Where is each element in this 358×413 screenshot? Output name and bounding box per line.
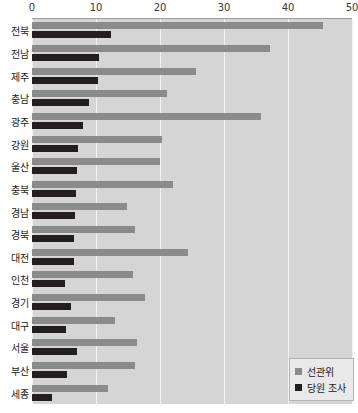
legend-swatch-icon bbox=[295, 384, 302, 391]
bar-row bbox=[32, 42, 352, 65]
legend-label: 선관위 bbox=[307, 364, 334, 379]
bar-dangwon-josa bbox=[32, 394, 52, 401]
category-label: 인천 bbox=[11, 272, 29, 287]
bar-seon-gwan-wi bbox=[32, 22, 323, 29]
category-label: 세종 bbox=[11, 385, 29, 400]
bar-seon-gwan-wi bbox=[32, 113, 261, 120]
bar-seon-gwan-wi bbox=[32, 249, 188, 256]
bar-dangwon-josa bbox=[32, 31, 111, 38]
category-label: 경기 bbox=[11, 295, 29, 310]
bar-dangwon-josa bbox=[32, 280, 65, 287]
bar-seon-gwan-wi bbox=[32, 339, 137, 346]
bar-seon-gwan-wi bbox=[32, 271, 133, 278]
x-axis: 01020304050 bbox=[0, 0, 358, 20]
category-label: 충남 bbox=[11, 91, 29, 106]
bar-dangwon-josa bbox=[32, 167, 77, 174]
bar-seon-gwan-wi bbox=[32, 226, 135, 233]
category-label: 부산 bbox=[11, 363, 29, 378]
x-tick-label: 50 bbox=[346, 2, 358, 13]
bar-row bbox=[32, 268, 352, 291]
bar-seon-gwan-wi bbox=[32, 136, 162, 143]
bar-seon-gwan-wi bbox=[32, 181, 173, 188]
bar-row bbox=[32, 200, 352, 223]
bar-seon-gwan-wi bbox=[32, 203, 127, 210]
bar-chart: 01020304050 전북전남제주충남광주강원울산충북경남경북대전인천경기대구… bbox=[0, 0, 358, 413]
bar-row bbox=[32, 19, 352, 42]
x-tick-label: 10 bbox=[90, 2, 103, 13]
category-label: 전북 bbox=[11, 23, 29, 38]
bar-dangwon-josa bbox=[32, 258, 74, 265]
bar-seon-gwan-wi bbox=[32, 317, 115, 324]
plot-area bbox=[32, 19, 352, 404]
category-label: 울산 bbox=[11, 159, 29, 174]
bar-dangwon-josa bbox=[32, 54, 99, 61]
bar-dangwon-josa bbox=[32, 303, 71, 310]
bar-dangwon-josa bbox=[32, 348, 77, 355]
y-axis-category-labels: 전북전남제주충남광주강원울산충북경남경북대전인천경기대구서울부산세종 bbox=[0, 19, 32, 404]
x-tick-label: 20 bbox=[154, 2, 167, 13]
category-label: 제주 bbox=[11, 68, 29, 83]
category-label: 경남 bbox=[11, 204, 29, 219]
bar-rows bbox=[32, 19, 352, 404]
legend-label: 당원 조사 bbox=[307, 380, 346, 395]
category-label: 충북 bbox=[11, 181, 29, 196]
category-label: 강원 bbox=[11, 136, 29, 151]
bar-dangwon-josa bbox=[32, 326, 66, 333]
bar-dangwon-josa bbox=[32, 145, 78, 152]
category-label: 경북 bbox=[11, 227, 29, 242]
x-tick-label: 40 bbox=[282, 2, 295, 13]
bar-row bbox=[32, 336, 352, 359]
bar-dangwon-josa bbox=[32, 371, 67, 378]
bar-dangwon-josa bbox=[32, 99, 89, 106]
legend-swatch-icon bbox=[295, 368, 302, 375]
legend: 선관위당원 조사 bbox=[289, 358, 354, 401]
bar-row bbox=[32, 64, 352, 87]
bar-row bbox=[32, 155, 352, 178]
bar-seon-gwan-wi bbox=[32, 362, 135, 369]
bar-dangwon-josa bbox=[32, 77, 98, 84]
category-label: 대전 bbox=[11, 249, 29, 264]
bar-row bbox=[32, 110, 352, 133]
bar-dangwon-josa bbox=[32, 190, 76, 197]
category-label: 전남 bbox=[11, 45, 29, 60]
bar-row bbox=[32, 223, 352, 246]
x-tick-label: 30 bbox=[218, 2, 231, 13]
legend-item[interactable]: 당원 조사 bbox=[295, 380, 346, 395]
category-label: 광주 bbox=[11, 113, 29, 128]
x-tick-label: 0 bbox=[29, 2, 35, 13]
bar-row bbox=[32, 87, 352, 110]
bar-seon-gwan-wi bbox=[32, 158, 160, 165]
bar-seon-gwan-wi bbox=[32, 90, 167, 97]
bar-seon-gwan-wi bbox=[32, 45, 270, 52]
bar-row bbox=[32, 245, 352, 268]
legend-items: 선관위당원 조사 bbox=[295, 364, 346, 395]
bar-dangwon-josa bbox=[32, 235, 74, 242]
bar-seon-gwan-wi bbox=[32, 294, 145, 301]
bar-seon-gwan-wi bbox=[32, 385, 108, 392]
bar-dangwon-josa bbox=[32, 122, 83, 129]
gridline bbox=[352, 19, 353, 404]
category-label: 서울 bbox=[11, 340, 29, 355]
bar-row bbox=[32, 178, 352, 201]
bar-seon-gwan-wi bbox=[32, 68, 196, 75]
bar-row bbox=[32, 291, 352, 314]
bar-row bbox=[32, 132, 352, 155]
bar-dangwon-josa bbox=[32, 212, 75, 219]
category-label: 대구 bbox=[11, 317, 29, 332]
legend-item[interactable]: 선관위 bbox=[295, 364, 346, 379]
bar-row bbox=[32, 313, 352, 336]
